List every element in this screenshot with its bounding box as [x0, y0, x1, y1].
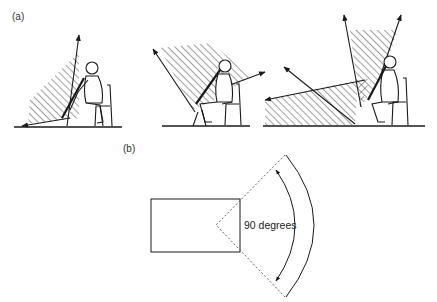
figure-3 [263, 15, 425, 126]
radiation-sector-hatch [160, 43, 252, 110]
angle-label: 90 degrees [244, 219, 297, 231]
instrument-rectangle [151, 199, 240, 252]
figure-2 [153, 43, 265, 126]
figure-1 [14, 35, 122, 127]
floor-reflection-hatch [265, 80, 358, 125]
diagram-canvas [0, 0, 437, 302]
radiation-sector-hatch [28, 52, 79, 124]
